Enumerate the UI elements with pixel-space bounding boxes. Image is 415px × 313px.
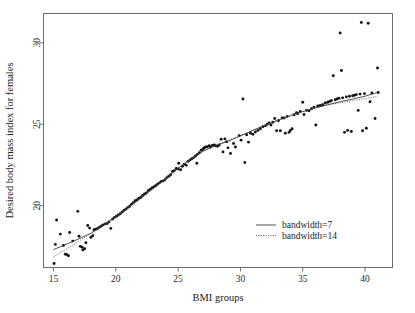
data-point (254, 131, 257, 134)
data-point (84, 241, 87, 244)
y-tick-label: 30 (32, 38, 42, 48)
data-point (76, 210, 79, 213)
data-point (374, 117, 377, 120)
data-point (275, 129, 278, 132)
data-point (361, 129, 364, 132)
data-point (324, 102, 327, 105)
data-point (363, 92, 366, 95)
x-tick-label: 15 (49, 274, 59, 284)
x-tick-label: 40 (360, 274, 370, 284)
data-point (279, 129, 282, 132)
data-point (284, 132, 287, 135)
data-point (81, 246, 84, 249)
data-point (88, 227, 91, 230)
x-tick-label: 25 (173, 274, 183, 284)
data-point (314, 124, 317, 127)
y-tick-label: 20 (32, 201, 42, 211)
x-axis-title: BMI groups (192, 292, 243, 303)
data-point (55, 219, 58, 222)
data-point (376, 67, 379, 70)
scatter-plot: 152025303540 202530 BMI groups Desired b… (0, 0, 415, 313)
x-tick-label: 20 (111, 274, 121, 284)
data-point (270, 124, 273, 127)
legend-label: bandwidth=7 (282, 220, 332, 230)
y-tick-label: 25 (32, 119, 42, 129)
data-point (343, 131, 346, 134)
figure-background (0, 0, 415, 313)
data-point (234, 146, 237, 149)
data-point (360, 21, 363, 24)
data-point (365, 127, 368, 130)
data-point (243, 161, 246, 164)
data-point (340, 69, 343, 72)
data-point (53, 262, 56, 265)
data-point (337, 97, 340, 100)
data-point (227, 146, 230, 149)
legend-label: bandwidth=14 (282, 231, 337, 241)
data-point (256, 129, 259, 132)
data-point (109, 227, 112, 230)
data-point (348, 95, 351, 98)
data-point (301, 101, 304, 104)
data-point (251, 133, 254, 136)
data-point (240, 139, 243, 142)
data-point (367, 22, 370, 25)
figure-container: 152025303540 202530 BMI groups Desired b… (0, 0, 415, 313)
data-point (59, 233, 62, 236)
data-point (179, 168, 182, 171)
data-point (341, 96, 344, 99)
data-point (78, 235, 81, 238)
x-tick-label: 35 (298, 274, 308, 284)
x-tick-label: 30 (236, 274, 246, 284)
data-point (359, 93, 362, 96)
data-point (303, 113, 306, 116)
data-point (54, 243, 57, 246)
data-point (223, 137, 226, 140)
data-point (273, 117, 276, 120)
data-point (247, 141, 250, 144)
data-point (339, 32, 342, 35)
data-point (345, 95, 348, 98)
data-point (185, 164, 188, 167)
data-point (83, 247, 86, 250)
data-point (346, 129, 349, 132)
data-point (86, 224, 89, 227)
y-axis-title: Desired body mass index for females (4, 63, 15, 219)
data-point (91, 234, 94, 237)
data-point (222, 150, 225, 153)
data-point (232, 142, 235, 145)
data-point (67, 254, 70, 257)
data-point (195, 162, 198, 165)
data-point (291, 127, 294, 130)
data-point (357, 109, 360, 112)
data-point (330, 99, 333, 102)
data-point (220, 138, 223, 141)
data-point (350, 130, 353, 133)
data-point (332, 74, 335, 77)
data-point (177, 162, 180, 165)
data-point (369, 100, 372, 103)
data-point (68, 231, 71, 234)
data-point (241, 98, 244, 101)
data-point (355, 93, 358, 96)
data-point (229, 152, 232, 155)
